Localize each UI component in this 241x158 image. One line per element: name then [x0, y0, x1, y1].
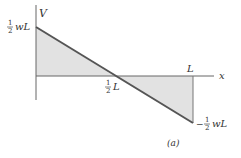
svg-text:2: 2 [205, 124, 209, 132]
svg-text:2: 2 [106, 87, 110, 95]
v-axis-label: V [39, 7, 48, 20]
svg-text:1: 1 [8, 19, 12, 27]
svg-text:wL: wL [212, 118, 228, 129]
svg-text:1: 1 [106, 79, 110, 87]
end-label: L [186, 63, 194, 74]
x-axis-label: x [219, 70, 225, 81]
caption: (a) [167, 138, 180, 148]
svg-text:1: 1 [205, 116, 209, 124]
svg-text:L: L [112, 81, 120, 92]
shear-diagram: V x 1 2 wL 1 2 L L − 1 2 wL (a) [0, 0, 241, 158]
svg-text:2: 2 [8, 27, 12, 35]
min-value-label: − 1 2 wL [196, 116, 228, 132]
svg-text:−: − [196, 119, 204, 129]
mid-label: 1 2 L [105, 79, 120, 95]
svg-text:wL: wL [15, 21, 31, 32]
max-value-label: 1 2 wL [7, 19, 31, 35]
